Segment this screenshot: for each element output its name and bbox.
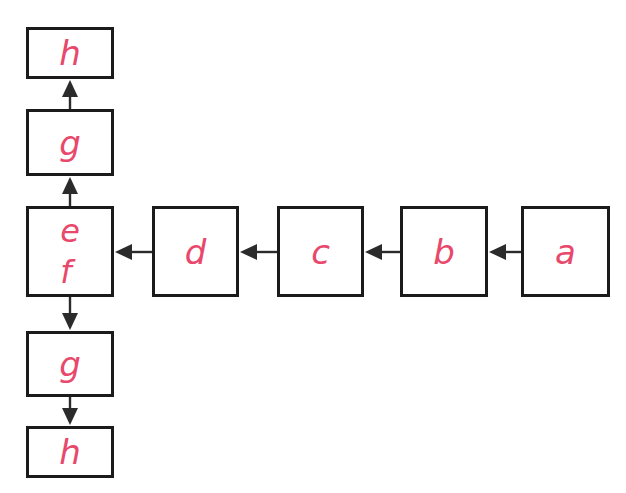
node-ef[interactable]: ef	[26, 206, 114, 297]
node-b[interactable]: b	[400, 206, 488, 297]
node-c[interactable]: c	[277, 206, 364, 297]
edge-ef-to-g-bottom	[55, 297, 85, 331]
node-d[interactable]: d	[152, 206, 239, 297]
node-label-c: c	[311, 235, 330, 269]
node-h-top[interactable]: h	[26, 27, 114, 79]
node-label-line: c	[311, 235, 330, 269]
node-label-line: a	[555, 235, 576, 269]
node-label-h-top: h	[59, 36, 81, 70]
node-label-line: d	[185, 235, 207, 269]
edge-g-bottom-to-h-bottom	[55, 397, 85, 426]
node-label-g-top: g	[59, 126, 81, 160]
edge-d-to-ef	[114, 237, 152, 267]
node-label-line: g	[59, 126, 81, 160]
node-label-d: d	[185, 235, 207, 269]
node-label-line: g	[59, 347, 81, 381]
node-h-bottom[interactable]: h	[26, 426, 114, 478]
edge-b-to-c	[364, 237, 400, 267]
node-label-b: b	[433, 235, 455, 269]
node-label-h-bottom: h	[59, 435, 81, 469]
edge-g-top-to-h-top	[55, 79, 85, 109]
node-g-top[interactable]: g	[26, 109, 114, 176]
node-label-line: f	[60, 252, 80, 293]
node-label-a: a	[555, 235, 576, 269]
node-label-line: h	[59, 36, 81, 70]
edge-ef-to-g-top	[55, 176, 85, 206]
node-a[interactable]: a	[521, 206, 610, 297]
node-label-line: h	[59, 435, 81, 469]
node-label-ef: ef	[60, 211, 80, 293]
node-label-line: e	[60, 211, 80, 252]
node-g-bottom[interactable]: g	[26, 331, 114, 397]
node-label-g-bottom: g	[59, 347, 81, 381]
diagram-canvas: hgefghdcba	[0, 0, 626, 493]
edge-a-to-b	[488, 237, 521, 267]
node-label-line: b	[433, 235, 455, 269]
edge-c-to-d	[239, 237, 277, 267]
